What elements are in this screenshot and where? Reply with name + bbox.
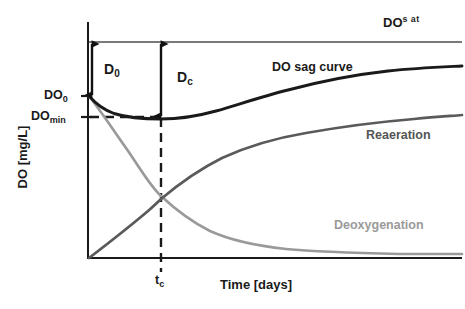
y-axis-title: DO [mg/L] — [15, 126, 30, 189]
do-min-subscript: min — [50, 115, 66, 125]
d0-base: D — [104, 61, 114, 77]
do-zero-subscript: 0 — [63, 94, 68, 104]
do-zero-label: DO0 — [44, 89, 68, 102]
chart-canvas — [0, 0, 465, 309]
reaeration-label: Reaeration — [366, 129, 431, 142]
dc-base: D — [177, 69, 187, 85]
tc-label: tc — [155, 274, 164, 287]
do-sag-curve-figure: DOs at D0 Dc DO0 DOmin DO sag curve Reae… — [0, 0, 465, 309]
do-sat-superscript: s at — [403, 14, 420, 24]
x-axis-title: Time [days] — [220, 278, 292, 291]
d0-subscript: 0 — [114, 68, 120, 79]
do-min-label: DOmin — [31, 110, 66, 123]
do-sag-curve-label: DO sag curve — [272, 61, 353, 74]
tc-subscript: c — [159, 279, 164, 289]
do-sat-label: DOs at — [383, 16, 420, 29]
do-sat-base: DO — [383, 15, 403, 30]
do-min-base: DO — [31, 109, 50, 123]
do-zero-base: DO — [44, 88, 63, 102]
dc-label: Dc — [177, 70, 193, 84]
d0-label: D0 — [104, 62, 120, 76]
deoxygenation-label: Deoxygenation — [334, 219, 424, 232]
dc-subscript: c — [187, 76, 193, 87]
y-axis-title-wrapper: DO [mg/L] — [13, 97, 31, 217]
